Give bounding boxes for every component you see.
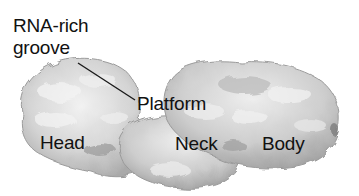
ribosomal-subunit-diagram: RNA-rich groove Platform Head Neck Body	[0, 0, 359, 196]
label-body: Body	[262, 133, 305, 154]
label-neck: Neck	[175, 133, 218, 154]
label-platform: Platform	[137, 93, 206, 114]
label-groove: groove	[13, 37, 70, 58]
label-rna-rich: RNA-rich	[13, 15, 88, 36]
label-head: Head	[40, 132, 85, 153]
